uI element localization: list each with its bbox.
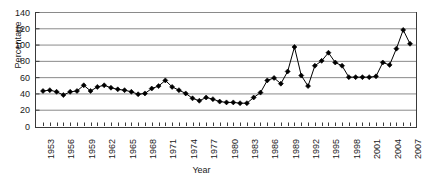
data-point-marker [401, 27, 406, 32]
x-tick-label: 1965 [129, 139, 138, 159]
data-point-marker [108, 85, 113, 90]
y-tick-label: 20 [6, 106, 30, 115]
data-point-marker [95, 84, 100, 89]
data-line [43, 30, 410, 103]
y-axis-tick-labels: 140120100806040200 [6, 0, 30, 183]
data-point-marker [340, 63, 345, 68]
x-tick-label: 1989 [292, 139, 301, 159]
x-tick-label: 1983 [251, 139, 260, 159]
data-point-marker [367, 75, 372, 80]
y-tick-label: 140 [6, 9, 30, 18]
data-point-marker [115, 87, 120, 92]
x-axis-title-text: Year [192, 165, 210, 175]
line-chart: Percentage 140120100806040200 1953195619… [0, 0, 427, 183]
x-tick-label: 1971 [169, 139, 178, 159]
x-tick-label: 1962 [108, 139, 117, 159]
data-point-marker [238, 101, 243, 106]
y-tick-label: 60 [6, 74, 30, 83]
data-point-marker [210, 97, 215, 102]
x-tick-label: 2001 [373, 139, 382, 159]
y-tick-label: 40 [6, 90, 30, 99]
x-tick-label: 1968 [149, 139, 158, 159]
data-point-marker [224, 100, 229, 105]
y-tick-label: 120 [6, 25, 30, 34]
data-point-marker [285, 69, 290, 74]
x-tick-label: 1959 [88, 139, 97, 159]
x-tick-label: 1995 [332, 139, 341, 159]
x-tick-label: 1992 [312, 139, 321, 159]
data-series-canvas [36, 12, 416, 126]
data-point-marker [346, 75, 351, 80]
y-tick-label: 80 [6, 57, 30, 66]
data-point-marker [102, 83, 107, 88]
data-point-marker [61, 93, 66, 98]
data-point-marker [353, 75, 358, 80]
data-point-marker [394, 46, 399, 51]
x-axis-title: Year [0, 165, 427, 175]
data-point-marker [176, 88, 181, 93]
x-axis-tick-labels: 1953195619591962196519681971197419771980… [35, 129, 417, 163]
x-tick-label: 1953 [47, 139, 56, 159]
data-point-marker [380, 60, 385, 65]
data-point-marker [197, 98, 202, 103]
x-tick-label: 1998 [353, 139, 362, 159]
data-point-marker [217, 99, 222, 104]
data-point-marker [47, 88, 52, 93]
x-tick-label: 2007 [414, 139, 423, 159]
data-point-marker [360, 75, 365, 80]
data-point-marker [204, 95, 209, 100]
plot-area [35, 12, 417, 128]
x-tick-label: 1977 [210, 139, 219, 159]
data-point-marker [122, 88, 127, 93]
x-tick-label: 2004 [394, 139, 403, 159]
data-point-marker [41, 88, 46, 93]
data-point-marker [231, 100, 236, 105]
y-tick-label: 100 [6, 41, 30, 50]
x-tick-label: 1986 [271, 139, 280, 159]
x-tick-label: 1956 [67, 139, 76, 159]
data-point-marker [387, 62, 392, 67]
data-point-marker [265, 78, 270, 83]
data-point-marker [306, 84, 311, 89]
x-tick-label: 1980 [231, 139, 240, 159]
data-point-marker [136, 92, 141, 97]
x-tick-label: 1974 [190, 139, 199, 159]
y-tick-label: 0 [6, 123, 30, 132]
